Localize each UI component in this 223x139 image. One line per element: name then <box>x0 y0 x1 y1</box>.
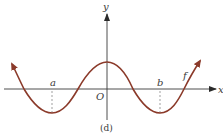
point-a-label: a <box>50 77 56 88</box>
curve-f-left-end <box>12 64 24 89</box>
y-axis-label: y <box>102 1 109 12</box>
graph: y x O a b f (d) <box>0 0 223 139</box>
origin-label: O <box>96 91 104 102</box>
figure-caption: (d) <box>100 123 113 133</box>
point-b-label: b <box>157 77 163 88</box>
curve-f-label: f <box>182 70 189 81</box>
x-axis-label: x <box>218 84 223 95</box>
